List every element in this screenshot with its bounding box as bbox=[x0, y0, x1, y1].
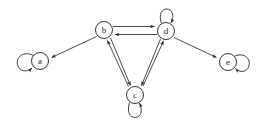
node-b[interactable]: b bbox=[96, 22, 113, 39]
node-a[interactable]: a bbox=[32, 53, 49, 70]
edge-b-to-c bbox=[111, 38, 131, 86]
edge-b-to-a bbox=[52, 37, 97, 58]
directed-graph-figure: a b c d e bbox=[0, 0, 261, 125]
edge-group bbox=[52, 27, 217, 87]
graph-canvas: a b c d e bbox=[0, 0, 261, 125]
node-e-label: e bbox=[226, 57, 230, 67]
node-a-label: a bbox=[38, 56, 42, 66]
self-loop-a bbox=[17, 54, 33, 71]
node-c[interactable]: c bbox=[127, 87, 144, 104]
node-c-label: c bbox=[133, 90, 137, 100]
edge-d-to-e bbox=[174, 38, 217, 58]
node-b-label: b bbox=[102, 25, 107, 35]
edge-c-to-b bbox=[108, 41, 129, 87]
edge-c-to-d bbox=[143, 41, 164, 86]
edge-d-to-c bbox=[142, 39, 161, 86]
self-loop-d bbox=[160, 9, 173, 24]
self-loop-c bbox=[128, 103, 141, 118]
node-group: a b c d e bbox=[32, 22, 237, 104]
node-d[interactable]: d bbox=[158, 23, 175, 40]
node-d-label: d bbox=[164, 26, 169, 36]
self-loop-e bbox=[235, 55, 249, 72]
node-e[interactable]: e bbox=[220, 54, 237, 71]
